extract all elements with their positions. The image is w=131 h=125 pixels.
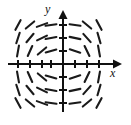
slope-segment <box>85 46 90 56</box>
slope-segment <box>15 98 20 108</box>
slope-segment <box>28 46 32 56</box>
slope-segment <box>46 75 57 78</box>
slope-segment <box>96 98 101 108</box>
x-axis-label: x <box>109 66 116 80</box>
slope-segment <box>83 99 91 106</box>
slope-segment <box>38 47 46 54</box>
slope-segment <box>96 20 101 30</box>
slope-segment <box>16 33 19 43</box>
slope-segment <box>70 75 80 78</box>
slope-segment <box>85 72 90 82</box>
slope-segment <box>70 102 81 104</box>
slope-segment <box>26 34 33 42</box>
slope-segment <box>70 37 81 39</box>
slope-field-figure: x y <box>0 0 131 125</box>
slope-segment <box>16 85 19 95</box>
slope-segment <box>70 49 80 52</box>
slope-segment <box>26 21 34 28</box>
slope-segment <box>17 72 19 83</box>
slope-segment <box>98 46 100 57</box>
slope-segment <box>46 37 57 39</box>
slope-segment <box>38 73 46 80</box>
slope-segment <box>15 20 20 30</box>
slope-segment <box>97 85 100 96</box>
slope-segment <box>98 72 100 83</box>
slope-segment <box>70 24 81 26</box>
slope-segment <box>17 46 19 57</box>
slope-segment <box>70 89 81 91</box>
slope-segment <box>83 34 90 42</box>
slope-segment <box>46 24 57 26</box>
slope-segment <box>83 86 90 94</box>
slope-segment <box>83 21 91 28</box>
slope-segment <box>97 33 100 44</box>
slope-segment <box>46 102 57 104</box>
slope-segment <box>26 86 33 94</box>
slope-segment <box>46 89 57 91</box>
slope-segment <box>28 72 32 82</box>
y-axis-label: y <box>44 2 51 16</box>
y-axis-arrow-icon <box>59 10 68 19</box>
slope-segment <box>46 49 57 52</box>
slope-field-canvas: x y <box>0 0 131 125</box>
slope-segment <box>26 99 34 106</box>
